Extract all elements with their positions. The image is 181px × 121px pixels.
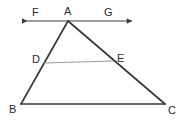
- point-label-d: D: [32, 54, 40, 65]
- figure-canvas: [0, 0, 181, 121]
- point-label-a: A: [64, 6, 71, 17]
- point-label-g: G: [104, 7, 113, 18]
- point-label-c: C: [168, 105, 176, 116]
- point-label-e: E: [117, 53, 124, 64]
- point-label-b: B: [9, 104, 16, 115]
- geometry-figure: F A G D E B C: [0, 0, 181, 121]
- point-label-f: F: [32, 7, 39, 18]
- segment-de: [44, 61, 113, 63]
